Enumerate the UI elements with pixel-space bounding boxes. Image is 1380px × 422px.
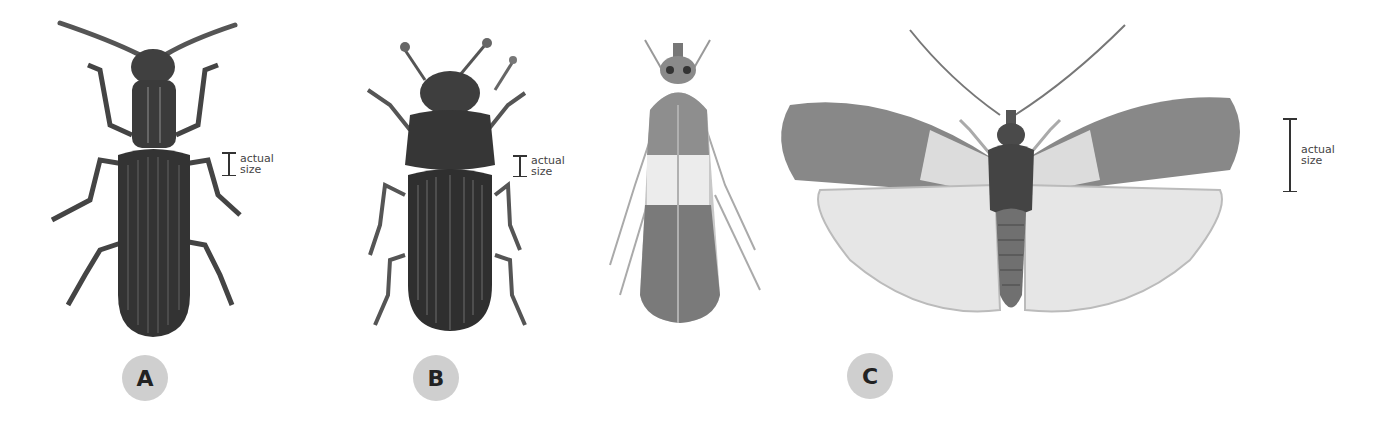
specimen-label-a: A [122, 355, 168, 401]
moth-resting-illustration [605, 35, 765, 325]
scale-bar-icon [1283, 118, 1297, 192]
beetle-a-illustration [40, 15, 250, 340]
specimen-label-c: C [847, 353, 893, 399]
scale-indicator-b: actual size [513, 155, 565, 177]
scale-label: actual size [531, 155, 565, 177]
scale-label: actual size [240, 153, 274, 175]
scale-bar-icon [513, 155, 527, 177]
scale-bar-icon [222, 152, 236, 176]
moth-spread-illustration [770, 20, 1260, 360]
scale-indicator-a: actual size [222, 152, 274, 176]
scale-label: actual size [1301, 144, 1335, 166]
specimen-label-b: B [413, 355, 459, 401]
scale-indicator-c: actual size [1283, 118, 1335, 192]
beetle-b-illustration [360, 35, 540, 335]
